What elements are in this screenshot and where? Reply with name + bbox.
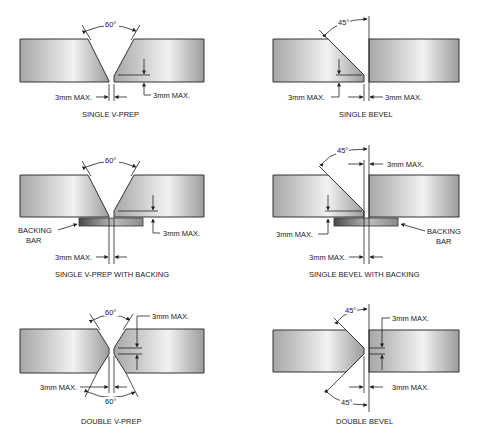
left-plate bbox=[20, 39, 109, 82]
backing-label-2: BAR bbox=[26, 236, 42, 245]
panel-single-bevel-with-backing: 45° 3mm MAX. 3mm MAX. BACKING BAR 3mm MA… bbox=[273, 145, 461, 279]
caption-single-bevel: SINGLE BEVEL bbox=[339, 110, 393, 119]
left-plate bbox=[20, 329, 109, 373]
backing-label-2: BAR bbox=[436, 237, 452, 246]
panel-single-v-prep-with-backing: 60° 3mm MAX. BACKING BAR 3mm MAX. SINGLE… bbox=[18, 156, 204, 279]
root-face-label: 3mm MAX. bbox=[163, 229, 200, 238]
weld-prep-diagram: 60° 3mm MAX. 3mm MAX. SINGLE V-PREP 45° … bbox=[0, 0, 479, 437]
right-plate bbox=[369, 175, 459, 217]
angle-label-bottom: 60° bbox=[105, 397, 116, 406]
backing-bar bbox=[79, 218, 143, 226]
right-plate bbox=[369, 330, 459, 372]
left-plate bbox=[20, 175, 109, 217]
gap-label: 3mm MAX. bbox=[55, 93, 92, 102]
angle-label: 45° bbox=[338, 18, 349, 27]
gap-label: 3mm MAX. bbox=[309, 253, 346, 262]
panel-double-bevel: 45° 45° 3mm MAX. 3mm MAX. DOUBLE BEVEL bbox=[273, 304, 459, 426]
gap-label: 3mm MAX. bbox=[40, 383, 77, 392]
gap-label: 3mm MAX. bbox=[392, 383, 429, 392]
root-face-label: 3mm MAX. bbox=[152, 312, 189, 321]
right-plate bbox=[114, 329, 204, 373]
backing-label: BACKING bbox=[18, 226, 52, 235]
panel-single-bevel: 45° 3mm MAX. 3mm MAX. SINGLE BEVEL bbox=[273, 16, 459, 119]
caption-single-bevel-with-backing: SINGLE BEVEL WITH BACKING bbox=[309, 270, 420, 279]
gap-label-top: 3mm MAX. bbox=[387, 160, 424, 169]
caption-double-bevel: DOUBLE BEVEL bbox=[336, 417, 393, 426]
left-plate bbox=[273, 39, 364, 82]
gap-label: 3mm MAX. bbox=[385, 93, 422, 102]
root-face-label: 3mm MAX. bbox=[392, 314, 429, 323]
left-plate bbox=[273, 330, 364, 372]
panel-single-v-prep: 60° 3mm MAX. 3mm MAX. SINGLE V-PREP bbox=[20, 20, 204, 119]
angle-label-top: 60° bbox=[105, 308, 116, 317]
angle-label: 45° bbox=[337, 146, 348, 155]
caption-single-v-prep: SINGLE V-PREP bbox=[82, 110, 139, 119]
panel-double-v-prep: 60° 60° 3mm MAX. 3mm MAX. DOUBLE V-PREP bbox=[20, 308, 204, 426]
angle-label-top: 45° bbox=[345, 306, 356, 315]
caption-single-v-prep-with-backing: SINGLE V-PREP WITH BACKING bbox=[55, 270, 169, 279]
backing-label: BACKING bbox=[427, 227, 461, 236]
root-face-label: 3mm MAX. bbox=[276, 230, 313, 239]
angle-label: 60° bbox=[105, 156, 116, 165]
root-face-label: 3mm MAX. bbox=[288, 93, 325, 102]
gap-label: 3mm MAX. bbox=[55, 253, 92, 262]
angle-label-bottom: 45° bbox=[341, 398, 352, 407]
backing-bar bbox=[334, 218, 398, 226]
angle-label: 60° bbox=[105, 20, 116, 29]
caption-double-v-prep: DOUBLE V-PREP bbox=[81, 417, 141, 426]
right-plate bbox=[114, 39, 204, 82]
right-plate bbox=[369, 39, 459, 82]
root-face-label: 3mm MAX. bbox=[153, 91, 190, 100]
